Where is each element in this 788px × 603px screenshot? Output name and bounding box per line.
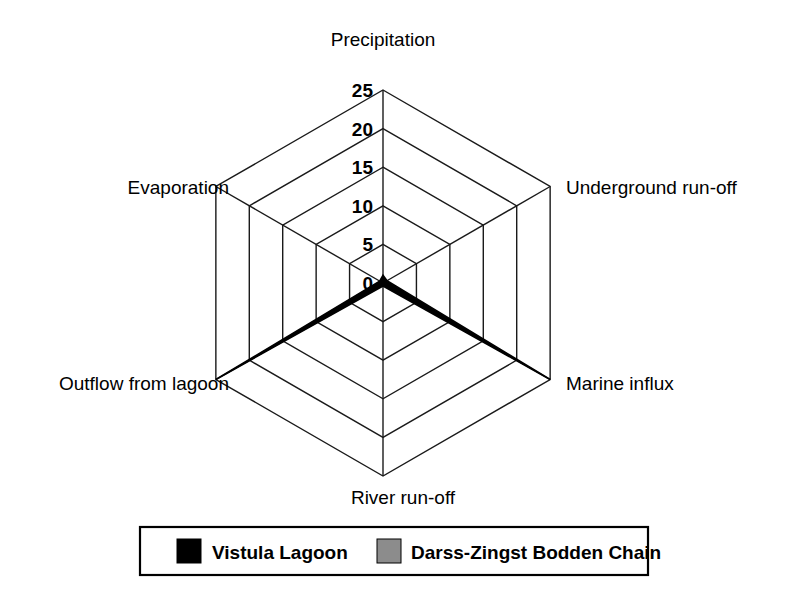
radial-tick-labels: 25 20 15 10 5 0	[352, 80, 374, 294]
radar-chart: 25 20 15 10 5 0 Precipitation Undergroun…	[0, 0, 788, 603]
legend-swatch-darss-zingst-bodden-chain	[377, 539, 401, 563]
tick-label-5: 5	[362, 234, 373, 255]
chart-legend: Vistula Lagoon Darss-Zingst Bodden Chain	[140, 527, 661, 575]
tick-label-0: 0	[362, 273, 373, 294]
legend-swatch-vistula-lagoon	[177, 539, 201, 563]
tick-label-15: 15	[352, 157, 374, 178]
legend-label-darss-zingst-bodden-chain: Darss-Zingst Bodden Chain	[411, 542, 661, 563]
axis-label-precipitation: Precipitation	[331, 29, 436, 50]
axis-category-labels: Precipitation Underground run-off Marine…	[59, 29, 738, 508]
axis-label-marine-influx: Marine influx	[566, 373, 674, 394]
tick-label-20: 20	[352, 119, 373, 140]
axis-label-outflow-from-lagoon: Outflow from lagoon	[59, 373, 229, 394]
tick-label-10: 10	[352, 196, 373, 217]
spoke-underground-run-off	[383, 187, 550, 284]
legend-label-vistula-lagoon: Vistula Lagoon	[212, 542, 348, 563]
axis-label-river-run-off: River run-off	[351, 487, 456, 508]
radar-chart-canvas: 25 20 15 10 5 0 Precipitation Undergroun…	[0, 0, 788, 603]
axis-label-evaporation: Evaporation	[128, 177, 229, 198]
axis-label-underground-run-off: Underground run-off	[566, 177, 737, 198]
tick-label-25: 25	[352, 80, 374, 101]
